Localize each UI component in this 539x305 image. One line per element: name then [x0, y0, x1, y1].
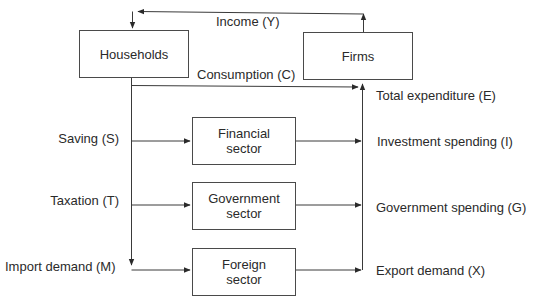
total-expenditure-label: Total expenditure (E) [376, 88, 496, 103]
government-label-line1: Government [208, 191, 280, 206]
saving-label: Saving (S) [58, 131, 119, 146]
foreign-label-line1: Foreign [222, 257, 266, 272]
foreign-sector-box: Foreign sector [192, 248, 296, 296]
financial-label-line2: sector [226, 141, 261, 156]
government-sector-box: Government sector [192, 182, 296, 230]
financial-label-line1: Financial [218, 126, 270, 141]
income-label: Income (Y) [216, 14, 280, 29]
export-demand-label: Export demand (X) [376, 263, 485, 278]
government-label-line2: sector [226, 206, 261, 221]
government-spending-label: Government spending (G) [376, 200, 526, 215]
investment-label: Investment spending (I) [377, 134, 513, 149]
financial-sector-box: Financial sector [192, 117, 296, 165]
households-label: Households [100, 47, 169, 62]
households-box: Households [79, 30, 189, 78]
consumption-label: Consumption (C) [197, 67, 295, 82]
import-demand-label: Import demand (M) [5, 259, 116, 274]
firms-label: Firms [342, 49, 375, 64]
foreign-label-line2: sector [226, 272, 261, 287]
taxation-label: Taxation (T) [50, 193, 119, 208]
firms-box: Firms [303, 32, 413, 80]
consumption-line [132, 86, 359, 88]
